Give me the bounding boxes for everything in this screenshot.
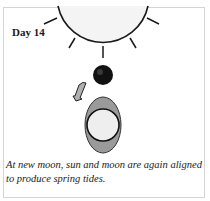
curved-arrow-icon bbox=[73, 82, 86, 101]
caption-text: At new moon, sun and moon are again alig… bbox=[6, 158, 206, 186]
earth-icon bbox=[87, 109, 119, 141]
new-moon-icon bbox=[93, 65, 113, 85]
diagram-panel: Day 14 At new moon, sun and moon are aga… bbox=[0, 0, 210, 201]
sun-icon bbox=[44, 6, 159, 58]
day-label: Day 14 bbox=[12, 26, 45, 38]
